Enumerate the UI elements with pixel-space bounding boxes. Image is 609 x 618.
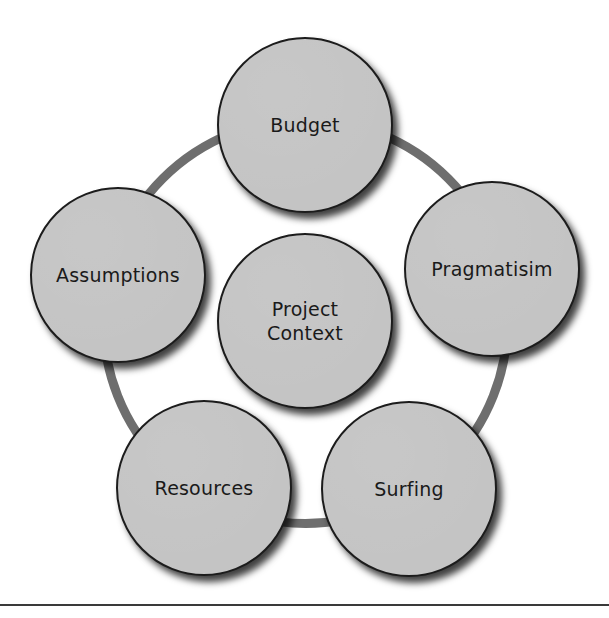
node-label-assumptions: Assumptions xyxy=(50,263,186,287)
node-resources: Resources xyxy=(116,400,292,576)
node-label-surfing: Surfing xyxy=(368,477,449,501)
node-assumptions: Assumptions xyxy=(30,187,206,363)
node-label-pragmatisim: Pragmatisim xyxy=(425,257,558,281)
node-label-budget: Budget xyxy=(264,113,346,137)
center-node-project-context: Project Context xyxy=(217,233,393,409)
center-node-label: Project Context xyxy=(261,297,349,345)
footer-divider xyxy=(0,604,609,606)
node-label-resources: Resources xyxy=(149,476,260,500)
node-surfing: Surfing xyxy=(321,401,497,577)
cycle-diagram: Budget Pragmatisim Surfing Resources Ass… xyxy=(0,0,609,618)
node-budget: Budget xyxy=(217,37,393,213)
node-pragmatisim: Pragmatisim xyxy=(404,181,580,357)
